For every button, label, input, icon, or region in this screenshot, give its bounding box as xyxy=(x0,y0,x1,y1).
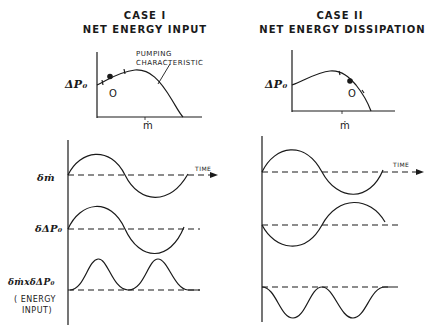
case1-characteristic-plot xyxy=(97,52,202,120)
case1-operating-point xyxy=(107,74,113,80)
case2-time-arrow xyxy=(416,169,424,175)
case2-operating-point xyxy=(347,78,353,84)
case2-characteristic-plot xyxy=(292,50,395,114)
case1-leader-line xyxy=(158,64,170,84)
case2-pumping-curve xyxy=(292,71,371,111)
case1-time-arrow xyxy=(210,172,218,178)
case2-dp0-wave xyxy=(262,202,385,246)
case1-mdot-wave xyxy=(68,154,188,197)
diagram-canvas xyxy=(0,0,436,334)
case2-product-wave xyxy=(262,287,392,318)
case1-dp0-wave xyxy=(68,206,184,253)
case1-product-wave xyxy=(70,259,200,290)
